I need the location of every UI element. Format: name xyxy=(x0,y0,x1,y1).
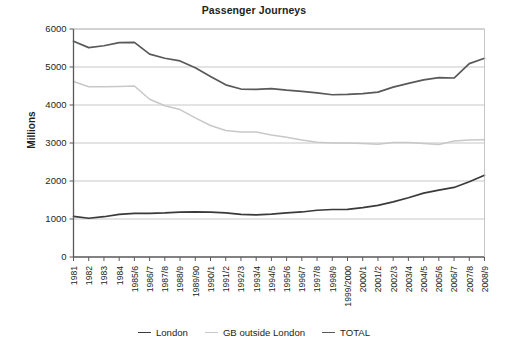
svg-text:1987/8: 1987/8 xyxy=(160,266,170,293)
svg-text:1996/7: 1996/7 xyxy=(297,266,307,293)
svg-text:2001/2: 2001/2 xyxy=(373,266,383,293)
x-axis-ticks: 19811982198319841985/61986/71987/81988/9… xyxy=(69,257,490,307)
legend-label-total: TOTAL xyxy=(340,327,370,338)
svg-text:2008/9: 2008/9 xyxy=(480,266,490,293)
svg-text:2007/8: 2007/8 xyxy=(465,266,475,293)
svg-text:1983: 1983 xyxy=(99,266,109,285)
svg-text:1992/3: 1992/3 xyxy=(236,266,246,293)
svg-text:1990/1: 1990/1 xyxy=(206,266,216,293)
svg-text:0: 0 xyxy=(61,251,66,262)
svg-text:1998/9: 1998/9 xyxy=(328,266,338,293)
svg-text:1993/4: 1993/4 xyxy=(252,266,262,293)
svg-text:1988/9: 1988/9 xyxy=(175,266,185,293)
svg-text:1984: 1984 xyxy=(115,266,125,285)
svg-text:6000: 6000 xyxy=(45,23,66,34)
legend-item-london[interactable]: London xyxy=(138,327,188,338)
svg-text:2002/3: 2002/3 xyxy=(389,266,399,293)
legend-item-gb-outside-london[interactable]: GB outside London xyxy=(205,327,305,338)
legend-swatch-london xyxy=(138,332,151,333)
plot-area: 0100020003000400050006000 19811982198319… xyxy=(0,0,508,352)
gridlines xyxy=(74,29,485,219)
legend-swatch-gb-outside-london xyxy=(205,332,218,333)
passenger-journeys-chart: Passenger Journeys Millions 010002000300… xyxy=(0,0,508,352)
svg-text:1985/6: 1985/6 xyxy=(130,266,140,293)
svg-text:1997/8: 1997/8 xyxy=(312,266,322,293)
svg-text:2004/5: 2004/5 xyxy=(419,266,429,293)
series-lines xyxy=(74,41,485,218)
svg-text:1986/7: 1986/7 xyxy=(145,266,155,293)
legend-label-london: London xyxy=(156,327,188,338)
svg-text:1989/90: 1989/90 xyxy=(191,266,201,297)
svg-text:1994/5: 1994/5 xyxy=(267,266,277,293)
svg-text:2000/1: 2000/1 xyxy=(358,266,368,293)
legend-item-total[interactable]: TOTAL xyxy=(322,327,370,338)
svg-text:1999/2000: 1999/2000 xyxy=(343,266,353,307)
legend-swatch-total xyxy=(322,332,335,333)
svg-text:1991/2: 1991/2 xyxy=(221,266,231,293)
svg-text:1995/6: 1995/6 xyxy=(282,266,292,293)
svg-text:2005/6: 2005/6 xyxy=(434,266,444,293)
chart-legend: London GB outside London TOTAL xyxy=(0,327,508,338)
svg-text:1981: 1981 xyxy=(69,266,79,285)
svg-text:3000: 3000 xyxy=(45,137,66,148)
svg-text:5000: 5000 xyxy=(45,61,66,72)
legend-label-gb-outside-london: GB outside London xyxy=(223,327,305,338)
svg-text:4000: 4000 xyxy=(45,99,66,110)
svg-text:2006/7: 2006/7 xyxy=(449,266,459,293)
svg-text:1982: 1982 xyxy=(84,266,94,285)
svg-text:2000: 2000 xyxy=(45,175,66,186)
svg-text:1000: 1000 xyxy=(45,213,66,224)
y-axis-ticks: 0100020003000400050006000 xyxy=(45,23,73,262)
svg-text:2003/4: 2003/4 xyxy=(404,266,414,293)
